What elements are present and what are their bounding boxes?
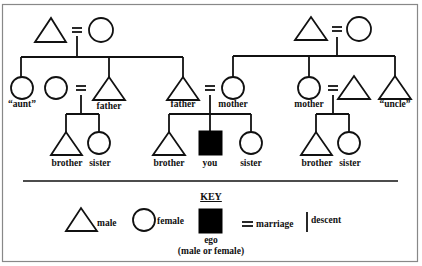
key-ego-label: ego [204, 235, 218, 245]
aunt-label: “aunt” [8, 99, 36, 109]
right-brother-triangle-icon [301, 132, 332, 155]
grandfather-left-triangle-icon [35, 18, 66, 42]
mother-ego-label: mother [218, 99, 248, 109]
kinship-diagram: “aunt” father brother sister father moth… [0, 0, 422, 266]
father-left-spouse-circle-icon [45, 77, 67, 99]
marriage-sign-right-mother [328, 86, 338, 90]
marriage-sign-ego-parents [205, 86, 215, 90]
key-ego-sublabel: (male or female) [178, 246, 244, 257]
key-marriage-label: marriage [256, 219, 293, 229]
marriage-sign-left-grandparents [72, 28, 82, 32]
right-brother-label: brother [302, 158, 334, 168]
marriage-sign-right-grandparents [332, 27, 342, 31]
ego-brother-triangle-icon [153, 132, 185, 155]
diagram-svg: “aunt” father brother sister father moth… [0, 0, 422, 266]
ego-you-square-icon [199, 131, 222, 155]
father-ego-label: father [171, 99, 197, 109]
key-ego-square-icon [199, 209, 222, 233]
grandmother-left-circle-icon [89, 18, 113, 42]
key-female-label: female [157, 216, 184, 226]
ego-sister-circle-icon [240, 132, 262, 154]
father-left-label: father [97, 101, 123, 111]
mother-right-label: mother [294, 99, 324, 109]
key-male-label: male [97, 218, 117, 228]
aunt-circle-icon [11, 77, 33, 99]
ego-brother-label: brother [154, 158, 186, 168]
right-grandparents [295, 17, 371, 41]
left-grandparents [35, 18, 113, 42]
key-female-circle-icon [133, 209, 155, 231]
left-sister-label: sister [89, 158, 111, 168]
marriage-sign-left-father [76, 86, 86, 90]
ego-you-label: you [203, 158, 219, 168]
key-title: KEY [200, 191, 222, 202]
key-descent-label: descent [311, 215, 342, 225]
mother-right-spouse-triangle-icon [338, 76, 370, 99]
father-ego-triangle-icon [167, 77, 199, 100]
right-sister-circle-icon [338, 132, 360, 154]
mother-right-circle-icon [298, 77, 320, 99]
grandmother-right-circle-icon [347, 17, 371, 41]
left-brother-triangle-icon [51, 132, 82, 155]
ego-sister-label: sister [240, 158, 262, 168]
left-sister-circle-icon [88, 132, 110, 154]
key-marriage-sign-icon [242, 222, 253, 226]
left-brother-label: brother [52, 158, 84, 168]
right-sister-label: sister [339, 158, 361, 168]
father-left-triangle-icon [93, 77, 125, 100]
uncle-label: “uncle” [379, 99, 410, 109]
uncle-triangle-icon [379, 76, 411, 99]
mother-ego-circle-icon [222, 77, 244, 99]
key-male-triangle-icon [66, 208, 97, 231]
grandfather-right-triangle-icon [295, 17, 327, 40]
